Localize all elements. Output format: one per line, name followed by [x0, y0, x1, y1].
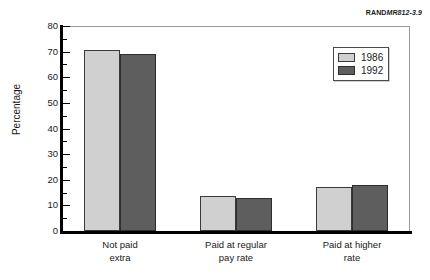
y-axis-tick-label: 30	[18, 149, 58, 159]
y-axis-minor-tick	[63, 39, 67, 40]
y-axis-minor-tick	[63, 116, 67, 117]
y-axis-tick-label: 80	[18, 21, 58, 31]
rand-report-number: MR812-3.9	[386, 9, 422, 16]
legend-label-1992: 1992	[361, 66, 383, 76]
rand-document-identifier: RANDMR812-3.9	[366, 9, 422, 16]
y-axis-major-tick	[63, 205, 70, 206]
figure-container: RANDMR812-3.9 01020304050607080 Percenta…	[0, 0, 430, 280]
chart-legend: 19861992	[333, 47, 389, 81]
bar-1992-1	[120, 54, 156, 231]
bar-1992-3	[352, 185, 388, 231]
y-axis-tick-label: 50	[18, 98, 58, 108]
y-axis-minor-tick	[63, 218, 67, 219]
y-axis-major-tick	[63, 103, 70, 104]
y-axis-minor-tick	[63, 167, 67, 168]
y-axis-major-tick	[63, 52, 70, 53]
category-label-line: Paid at higher	[277, 239, 427, 252]
bar-1986-2	[200, 196, 236, 231]
y-axis-tick-label: 0	[18, 226, 58, 236]
bar-1992-2	[236, 198, 272, 231]
y-axis-tick-label: 60	[18, 72, 58, 82]
y-axis-major-tick	[63, 129, 70, 130]
y-axis-minor-tick	[63, 64, 67, 65]
y-axis-minor-tick	[63, 90, 67, 91]
y-axis-major-tick	[63, 26, 70, 27]
x-axis-category-label: Paid at higherrate	[277, 239, 427, 264]
y-axis-minor-tick	[63, 141, 67, 142]
category-label-line: rate	[277, 252, 427, 265]
y-axis-tick-label: 40	[18, 124, 58, 134]
y-axis-tick-label: 20	[18, 175, 58, 185]
rand-brand-text: RAND	[366, 9, 387, 16]
y-axis-major-tick	[63, 231, 70, 232]
x-axis-line	[60, 231, 412, 234]
y-axis-minor-tick	[63, 193, 67, 194]
y-axis-major-tick	[63, 180, 70, 181]
legend-label-1986: 1986	[361, 53, 383, 63]
legend-item-1992: 1992	[338, 64, 383, 77]
legend-item-1986: 1986	[338, 51, 383, 64]
y-axis-major-tick	[63, 154, 70, 155]
y-axis-tick-label: 70	[18, 47, 58, 57]
y-axis-title: Percentage	[11, 60, 22, 160]
bar-1986-1	[84, 50, 120, 231]
y-axis-major-tick	[63, 77, 70, 78]
bar-1986-3	[316, 187, 352, 231]
y-axis-tick-label: 10	[18, 200, 58, 210]
legend-swatch-1992	[338, 66, 355, 75]
legend-swatch-1986	[338, 53, 355, 62]
